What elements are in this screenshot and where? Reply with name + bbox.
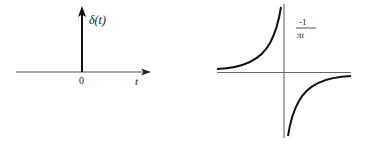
- hilbert-kernel-diagram: -1 πt: [217, 4, 351, 138]
- figure: δ(t) 0 t -1 πt: [0, 0, 368, 145]
- t-axis-label: t: [135, 75, 139, 87]
- curve-positive-t: [288, 76, 351, 136]
- impulse-diagram: δ(t) 0 t: [16, 6, 151, 87]
- fraction-numerator: -1: [299, 17, 307, 27]
- fraction-denominator: πt: [297, 30, 305, 40]
- impulse-label: δ(t): [89, 13, 106, 27]
- curve-negative-t: [217, 7, 281, 69]
- origin-label: 0: [79, 75, 84, 86]
